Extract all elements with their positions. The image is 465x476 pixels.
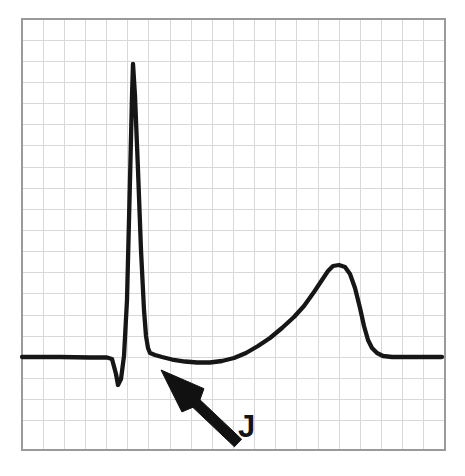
figure-background (0, 0, 465, 476)
ecg-diagram-canvas: J (0, 0, 465, 476)
j-point-label: J (238, 409, 255, 444)
ecg-figure-root: J (0, 0, 465, 476)
ecg-graph-paper-grid (22, 19, 445, 450)
